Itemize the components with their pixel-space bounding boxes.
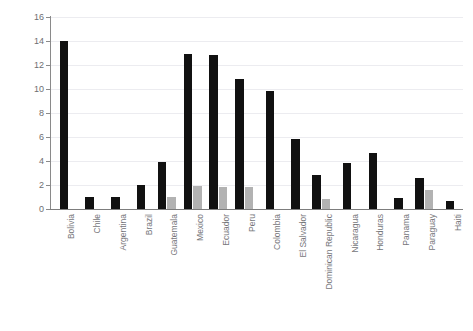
chart-title <box>0 0 473 3</box>
bar-chart: 0246810121416 BoliviaChileArgentinaBrazi… <box>0 0 473 331</box>
bar-group <box>334 17 360 209</box>
x-category-label: Nicaragua <box>351 214 360 253</box>
bar-group <box>231 17 257 209</box>
bar-group <box>77 17 103 209</box>
bar-series-2 <box>322 199 331 209</box>
y-tick-label: 6 <box>4 133 44 142</box>
x-category-label: Dominican Republic <box>325 214 334 290</box>
x-category-label: El Salvador <box>299 214 308 257</box>
bar-series-1 <box>60 41 69 209</box>
x-axis-line <box>50 209 463 210</box>
bar-series-1 <box>369 153 378 209</box>
bar-group <box>154 17 180 209</box>
y-tick-label: 10 <box>4 85 44 94</box>
y-tick-label: 8 <box>4 109 44 118</box>
bar-group <box>257 17 283 209</box>
bar-series-1 <box>184 54 193 209</box>
x-category-label: Paraguay <box>428 214 437 250</box>
y-tick-label: 0 <box>4 205 44 214</box>
y-tick-label: 16 <box>4 13 44 22</box>
bar-series-2 <box>167 197 176 209</box>
bar-group <box>51 17 77 209</box>
bar-series-1 <box>235 79 244 209</box>
bar-series-1 <box>137 185 146 209</box>
x-category-label: Mexico <box>196 214 205 241</box>
x-category-label: Ecuador <box>222 214 231 246</box>
x-category-label: Guatemala <box>170 214 179 256</box>
bar-series-1 <box>415 178 424 209</box>
bar-series-1 <box>343 163 352 209</box>
bar-series-2 <box>425 190 434 209</box>
x-category-label: Honduras <box>376 214 385 251</box>
bar-series-2 <box>219 187 228 209</box>
x-category-label: Bolivia <box>67 214 76 239</box>
bar-series-1 <box>394 198 403 209</box>
bar-group <box>360 17 386 209</box>
bar-series-1 <box>85 197 94 209</box>
bar-series-1 <box>209 55 218 209</box>
bar-group <box>103 17 129 209</box>
x-category-label: Haiti <box>454 214 463 231</box>
bar-group <box>283 17 309 209</box>
x-category-label: Chile <box>93 214 102 233</box>
bar-series-2 <box>193 186 202 209</box>
bar-series-1 <box>312 175 321 209</box>
y-tick-label: 2 <box>4 181 44 190</box>
x-category-label: Argentina <box>119 214 128 250</box>
y-axis-labels: 0246810121416 <box>0 0 44 331</box>
bar-series-1 <box>291 139 300 209</box>
bar-series-1 <box>158 162 167 209</box>
y-tick-label: 4 <box>4 157 44 166</box>
bar-group <box>309 17 335 209</box>
bar-series-1 <box>266 91 275 209</box>
bar-group <box>206 17 232 209</box>
bar-series-2 <box>245 187 254 209</box>
x-category-label: Brazil <box>145 214 154 235</box>
x-category-label: Peru <box>248 214 257 232</box>
y-tick-label: 12 <box>4 61 44 70</box>
bar-group <box>128 17 154 209</box>
bar-group <box>386 17 412 209</box>
plot-area <box>51 17 463 209</box>
bar-group <box>180 17 206 209</box>
bar-group <box>412 17 438 209</box>
x-category-label: Panama <box>402 214 411 246</box>
y-tick-label: 14 <box>4 37 44 46</box>
x-category-label: Colombia <box>273 214 282 250</box>
bar-series-1 <box>446 201 455 209</box>
bar-series-1 <box>111 197 120 209</box>
bar-group <box>437 17 463 209</box>
